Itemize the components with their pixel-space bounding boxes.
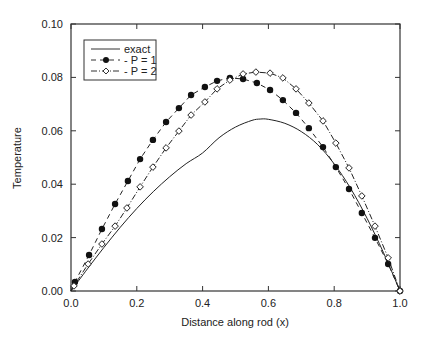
data-point-filled-circle: [320, 144, 326, 150]
data-point-open-diamond: [372, 223, 379, 230]
data-point-filled-circle: [254, 80, 260, 86]
series-exact-line: [71, 119, 400, 291]
data-point-filled-circle: [125, 178, 131, 184]
series-p1-line: [71, 78, 400, 291]
data-point-open-diamond: [163, 145, 170, 152]
data-point-open-diamond: [124, 205, 131, 212]
data-point-filled-circle: [267, 87, 273, 93]
data-point-filled-circle: [86, 252, 92, 258]
data-point-filled-circle: [202, 84, 208, 90]
data-point-filled-circle: [112, 201, 118, 207]
data-point-filled-circle: [150, 137, 156, 143]
data-point-open-diamond: [253, 69, 260, 76]
data-point-open-diamond: [397, 288, 404, 295]
data-point-filled-circle: [372, 235, 378, 241]
data-point-open-diamond: [267, 70, 274, 77]
x-tick-label: 0.2: [129, 297, 144, 309]
data-point-open-diamond: [85, 261, 92, 268]
data-point-filled-circle: [280, 97, 286, 103]
data-point-filled-circle: [333, 164, 339, 170]
data-point-open-diamond: [112, 223, 119, 230]
data-point-open-diamond: [359, 193, 366, 200]
data-point-open-diamond: [137, 184, 144, 191]
data-point-filled-circle: [188, 92, 194, 98]
data-point-filled-circle: [99, 226, 105, 232]
data-point-filled-circle: [176, 105, 182, 111]
x-tick-label: 1.0: [392, 297, 407, 309]
data-point-filled-circle: [346, 186, 352, 192]
y-tick-label: 0.04: [42, 178, 63, 190]
data-point-open-diamond: [150, 164, 157, 171]
x-tick-label: 0.0: [63, 297, 78, 309]
data-point-open-diamond: [240, 71, 247, 78]
y-tick-label: 0.10: [42, 18, 63, 30]
data-point-open-diamond: [333, 140, 340, 147]
y-tick-label: 0.06: [42, 125, 63, 137]
legend-filled-circle-icon: [103, 57, 109, 63]
temperature-chart: 0.00.20.40.60.81.00.000.020.040.060.080.…: [0, 0, 425, 344]
data-point-open-diamond: [346, 165, 353, 172]
data-point-filled-circle: [163, 119, 169, 125]
data-point-filled-circle: [137, 156, 143, 162]
data-point-filled-circle: [214, 78, 220, 84]
series-p2-line: [71, 72, 400, 291]
y-tick-label: 0.00: [42, 285, 63, 297]
x-axis-label: Distance along rod (x): [181, 316, 289, 328]
x-tick-label: 0.4: [195, 297, 210, 309]
y-tick-label: 0.08: [42, 71, 63, 83]
x-tick-label: 0.8: [327, 297, 342, 309]
y-axis-label: Temperature: [11, 127, 23, 189]
legend: exact - P = 1 - P = 2: [84, 40, 157, 80]
legend-label-p2: - P = 2: [124, 65, 157, 77]
data-point-filled-circle: [293, 110, 299, 116]
x-tick-label: 0.6: [261, 297, 276, 309]
data-point-filled-circle: [359, 210, 365, 216]
y-tick-label: 0.02: [42, 232, 63, 244]
data-point-filled-circle: [306, 125, 312, 131]
series-group: [71, 69, 404, 295]
